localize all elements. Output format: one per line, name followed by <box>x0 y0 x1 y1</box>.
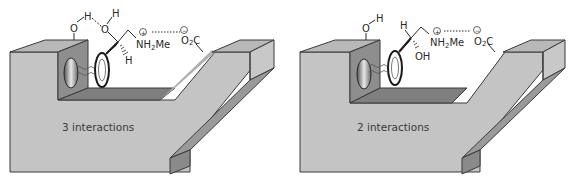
phenol-oxygen-label: O <box>362 23 370 34</box>
svg-text:−: − <box>182 27 187 34</box>
chiral-hydrogen-label: H <box>125 55 133 66</box>
amine-label: NH2Me <box>136 39 170 52</box>
hydroxyl-hydrogen-label: H <box>112 8 120 19</box>
hydrophobic-pocket-icon <box>357 59 371 89</box>
amine-label: NH2Me <box>430 37 464 50</box>
interaction-count-caption: 3 interactions <box>62 121 134 133</box>
panel-2-interactions: O H H OH + NH2Me − O2C 2 interactions <box>287 0 573 186</box>
phenol-hydrogen-label: H <box>84 11 92 22</box>
aromatic-ring-icon <box>388 51 402 85</box>
receptor-front-face <box>10 52 252 172</box>
receptor-binding-diagram: O H O H H + NH2Me − O2C <box>0 0 290 186</box>
panel-3-interactions: O H O H H + NH2Me − O2C 3 interactions <box>0 0 290 186</box>
phenol-hydrogen-label: H <box>376 13 384 24</box>
svg-text:+: + <box>141 29 146 36</box>
phenol-oxygen-label: O <box>70 23 78 34</box>
receptor-front-face <box>300 52 543 172</box>
svg-text:−: − <box>475 27 480 34</box>
hydrophobic-pocket-icon <box>64 58 78 88</box>
receptor-binding-diagram: O H H OH + NH2Me − O2C <box>287 0 573 186</box>
svg-text:+: + <box>435 28 440 35</box>
hydroxyl-oxygen-label: O <box>101 24 109 35</box>
chiral-hydrogen-label: H <box>400 20 408 31</box>
carboxylate-label: O2C <box>474 36 493 48</box>
carboxylate-label: O2C <box>181 35 200 47</box>
aromatic-ring-icon <box>95 53 109 87</box>
interaction-count-caption: 2 interactions <box>357 121 429 133</box>
hydroxyl-label: OH <box>415 51 430 62</box>
